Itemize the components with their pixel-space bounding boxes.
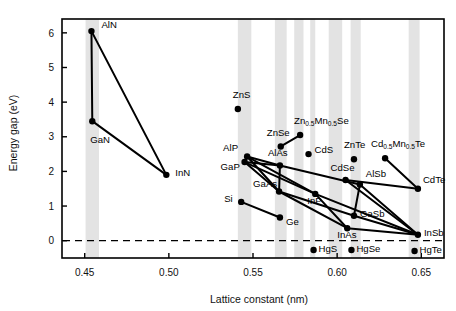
data-point-AlSb xyxy=(357,181,363,187)
y-tick-label-1: 1 xyxy=(48,201,54,212)
point-label-InN: InN xyxy=(175,167,190,178)
data-point-HgSe xyxy=(348,247,354,253)
data-point-CdSe xyxy=(342,177,348,183)
connection-AlN-InN xyxy=(91,31,166,175)
data-point-CdS xyxy=(305,151,311,157)
y-tick-label-3: 3 xyxy=(48,131,54,142)
point-label-ZnSe: ZnSe xyxy=(267,127,290,138)
x-tick-label-3: 0.60 xyxy=(327,267,347,278)
energy-gap-vs-lattice-constant-figure: 0123456 0.450.500.550.600.65 AlNGaNInNZn… xyxy=(0,0,456,311)
x-tick-label-1: 0.50 xyxy=(159,267,179,278)
y-axis-label: Energy gap (eV) xyxy=(7,95,19,171)
data-point-CdTe xyxy=(415,186,421,192)
data-point-ZnMnSe xyxy=(297,132,303,138)
point-label-GaN: GaN xyxy=(90,134,110,145)
point-label-GaSb: GaSb xyxy=(360,208,385,219)
y-tick-label-5: 5 xyxy=(48,62,54,73)
point-label-InAs: InAs xyxy=(337,229,356,240)
point-label-InP: InP xyxy=(307,195,321,206)
y-axis-ticks-group: 0123456 xyxy=(48,28,67,247)
highlight-bands-group xyxy=(86,19,420,258)
point-label-AlAs: AlAs xyxy=(268,147,288,158)
data-point-GaSb xyxy=(351,213,357,219)
data-point-Si xyxy=(238,199,244,205)
point-label-InSb: InSb xyxy=(424,227,444,238)
highlight-band-4 xyxy=(310,19,315,258)
point-label-ZnMnSe: Zn0.5Mn0.5Se xyxy=(294,115,349,127)
data-point-InN xyxy=(163,172,169,178)
connection-GaN-InN xyxy=(92,121,166,175)
point-label-Si: Si xyxy=(224,193,233,204)
alloy-connection-lines-group xyxy=(91,31,417,235)
point-label-CdS: CdS xyxy=(315,144,334,155)
connection-AlN-GaN xyxy=(91,31,92,121)
data-point-GaP xyxy=(241,159,247,165)
chart-svg: 0123456 0.450.500.550.600.65 AlNGaNInNZn… xyxy=(0,0,456,311)
y-tick-label-0: 0 xyxy=(48,235,54,246)
point-label-ZnTe: ZnTe xyxy=(344,139,365,150)
point-label-HgS: HgS xyxy=(319,243,338,254)
point-label-AlP: AlP xyxy=(223,142,238,153)
data-point-Ge xyxy=(277,214,283,220)
x-tick-label-0: 0.45 xyxy=(75,267,95,278)
x-tick-label-2: 0.55 xyxy=(243,267,263,278)
y-tick-label-4: 4 xyxy=(48,97,54,108)
point-label-CdSe: CdSe xyxy=(331,162,355,173)
data-point-CdMnTe xyxy=(382,155,388,161)
data-point-AlAs xyxy=(277,162,283,168)
data-point-GaN xyxy=(89,118,95,124)
point-label-GaAs: GaAs xyxy=(253,178,277,189)
data-point-AlN xyxy=(88,28,94,34)
data-point-HgTe xyxy=(411,248,417,254)
point-label-HgTe: HgTe xyxy=(420,244,442,255)
highlight-band-1 xyxy=(238,19,251,258)
point-label-ZnS: ZnS xyxy=(233,89,251,100)
data-point-ZnS xyxy=(235,106,241,112)
data-point-labels-group: AlNGaNInNZnSZnSeZn0.5Mn0.5SeCdSZnTeCd0.5… xyxy=(90,19,445,255)
x-tick-label-4: 0.65 xyxy=(412,267,432,278)
data-point-HgS xyxy=(310,247,316,253)
point-label-HgSe: HgSe xyxy=(356,243,380,254)
point-label-CdTe: CdTe xyxy=(423,174,445,185)
point-label-Ge: Ge xyxy=(286,216,299,227)
data-point-GaAs xyxy=(276,188,282,194)
x-axis-label: Lattice constant (nm) xyxy=(210,293,308,305)
data-point-InSb xyxy=(415,232,421,238)
y-tick-label-6: 6 xyxy=(48,28,54,39)
point-label-GaP: GaP xyxy=(221,161,240,172)
point-label-CdMnTe: Cd0.5Mn0.5Te xyxy=(371,138,425,150)
point-label-AlSb: AlSb xyxy=(366,168,386,179)
y-tick-label-2: 2 xyxy=(48,166,54,177)
x-axis-ticks-group: 0.450.500.550.600.65 xyxy=(75,253,431,278)
point-label-AlN: AlN xyxy=(101,19,117,30)
data-point-AlP xyxy=(244,153,250,159)
highlight-band-2 xyxy=(275,19,287,258)
